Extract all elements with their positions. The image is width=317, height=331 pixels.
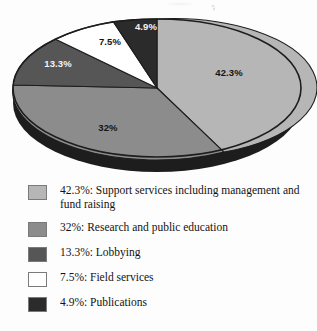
slice-label-publications: 4.9%: [135, 21, 158, 32]
legend-item-support-services: 42.3%: Support services including manage…: [28, 184, 312, 211]
pie-chart: 42.3% 32% 13.3% 7.5% 4.9%: [0, 0, 317, 180]
chart-legend: 42.3%: Support services including manage…: [0, 184, 317, 331]
slice-label-support-services: 42.3%: [215, 67, 243, 78]
legend-label-research-education: 32%: Research and public education: [60, 221, 312, 235]
legend-label-publications: 4.9%: Publications: [60, 296, 312, 310]
legend-swatch-research-education: [28, 222, 47, 237]
legend-swatch-support-services: [28, 185, 47, 200]
legend-item-research-education: 32%: Research and public education: [28, 221, 312, 237]
slice-label-field-services: 7.5%: [99, 36, 122, 47]
slice-label-research-education: 32%: [98, 122, 118, 133]
legend-item-lobbying: 13.3%: Lobbying: [28, 246, 312, 262]
legend-swatch-publications: [28, 297, 47, 312]
legend-item-publications: 4.9%: Publications: [28, 296, 312, 312]
pie-chart-graphic: 42.3% 32% 13.3% 7.5% 4.9%: [0, 0, 317, 180]
legend-swatch-field-services: [28, 272, 47, 287]
legend-label-field-services: 7.5%: Field services: [60, 271, 312, 285]
legend-item-field-services: 7.5%: Field services: [28, 271, 312, 287]
legend-label-lobbying: 13.3%: Lobbying: [60, 246, 312, 260]
pie-chart-page: 42.3% 32% 13.3% 7.5% 4.9% 42.3%: Support…: [0, 0, 317, 331]
legend-label-support-services: 42.3%: Support services including manage…: [60, 184, 312, 211]
slice-label-lobbying: 13.3%: [44, 58, 72, 69]
legend-swatch-lobbying: [28, 247, 47, 262]
